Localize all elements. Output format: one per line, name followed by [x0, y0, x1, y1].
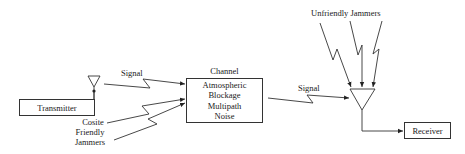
- channel-effect-atmospheric: Atmospheric: [203, 80, 247, 90]
- antenna-junction-dot: [92, 89, 95, 92]
- channel-title: Channel: [186, 66, 263, 76]
- channel-effect-blockage: Blockage: [208, 90, 240, 100]
- signal-out-label: Signal: [298, 83, 320, 93]
- receiver-antenna-icon: [350, 89, 375, 110]
- signal-in-label: Signal: [121, 68, 143, 78]
- transmitter-antenna-icon: [88, 76, 100, 87]
- receiver-box: Receiver: [404, 122, 451, 139]
- unfriendly-jammers-label: Unfriendly Jammers: [311, 8, 381, 18]
- receiver-wire: [362, 110, 403, 131]
- transmitter-box: Transmitter: [19, 99, 95, 116]
- receiver-label: Receiver: [412, 126, 442, 136]
- signal-in-arrow: [104, 79, 185, 88]
- diagram-canvas: [0, 0, 465, 154]
- cosite-jammers-label: Cosite Friendly Jammers: [72, 117, 108, 147]
- channel-box: Atmospheric Blockage Multipath Noise: [186, 78, 263, 123]
- channel-effect-noise: Noise: [215, 111, 235, 121]
- cosite-jammer-arrow-2: [114, 103, 185, 140]
- transmitter-label: Transmitter: [37, 103, 76, 113]
- unfriendly-jammer-arrow-3: [373, 21, 382, 87]
- unfriendly-jammer-arrow-2: [350, 21, 362, 87]
- channel-effect-multipath: Multipath: [208, 101, 242, 111]
- cosite-jammer-arrow-1: [107, 99, 185, 123]
- signal-out-arrow: [268, 95, 349, 103]
- unfriendly-jammer-arrow-1: [320, 23, 351, 87]
